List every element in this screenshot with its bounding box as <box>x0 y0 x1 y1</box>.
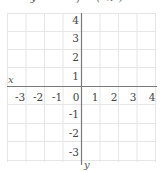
axes <box>7 13 157 165</box>
y-tick: 3 <box>72 32 79 44</box>
x-tick-labels: -3 -2 -1 0 1 2 3 4 <box>15 91 156 103</box>
y-tick: 1 <box>72 70 79 82</box>
x-tick: 4 <box>149 91 156 103</box>
y-tick: 2 <box>72 51 79 63</box>
x-tick: 0 <box>73 91 80 103</box>
x-axis-label: x <box>8 74 14 85</box>
x-tick: 3 <box>130 91 137 103</box>
y-tick: -1 <box>69 108 79 120</box>
x-tick: -3 <box>15 91 25 103</box>
x-tick: -1 <box>52 91 62 103</box>
y-tick: -2 <box>69 127 79 139</box>
coordinate-grid: x y -3 -2 -1 0 1 2 3 4 4 3 2 1 -1 -2 -3 <box>0 0 160 172</box>
y-axis-label: y <box>83 159 90 170</box>
y-tick: 4 <box>72 14 79 26</box>
x-tick: 2 <box>111 91 118 103</box>
x-tick: 1 <box>92 91 99 103</box>
y-tick: -3 <box>69 146 79 158</box>
x-tick: -2 <box>33 91 43 103</box>
